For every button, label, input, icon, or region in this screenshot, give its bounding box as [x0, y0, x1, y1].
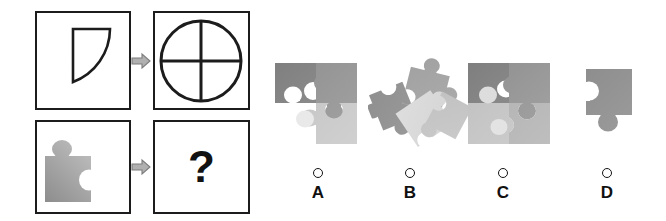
option-a-image[interactable]: [272, 55, 382, 160]
label-b: B: [404, 184, 416, 201]
exercise-canvas: ?: [0, 0, 666, 221]
piece-single: [568, 55, 666, 160]
label-c: C: [497, 184, 509, 201]
label-d: D: [601, 184, 613, 201]
radio-c[interactable]: [498, 168, 508, 178]
option-c-image[interactable]: [464, 55, 574, 160]
matrix-cell-source-row1: [35, 11, 131, 110]
piece-bottom-right: [464, 55, 574, 160]
missing-piece-ghost: [296, 111, 314, 128]
single-puzzle-piece: [37, 122, 129, 212]
matrix-cell-target-row1: [153, 11, 250, 110]
choice-b[interactable]: B: [390, 168, 430, 214]
option-d-image[interactable]: [568, 55, 666, 160]
arrow-right-icon-row2: [130, 156, 152, 178]
arrow-right-icon-row1: [130, 50, 152, 72]
option-b-image[interactable]: [368, 55, 478, 160]
socket-bottom-left-fill: [497, 122, 506, 131]
matrix-cell-source-row2: [35, 120, 131, 214]
quarter-circle-shape: [37, 13, 129, 108]
radio-d[interactable]: [602, 168, 612, 178]
radio-a[interactable]: [313, 168, 323, 178]
choice-d[interactable]: D: [587, 168, 627, 214]
full-circle-quadrants: [155, 13, 248, 108]
piece-socket-hole-fill: [290, 91, 300, 101]
choice-c[interactable]: C: [483, 168, 523, 214]
piece-bottom-right: [272, 55, 382, 160]
choice-a[interactable]: A: [298, 168, 338, 214]
label-a: A: [312, 184, 324, 201]
question-mark: ?: [153, 120, 250, 214]
socket-top-left-fill: [485, 91, 495, 100]
radio-b[interactable]: [405, 168, 415, 178]
